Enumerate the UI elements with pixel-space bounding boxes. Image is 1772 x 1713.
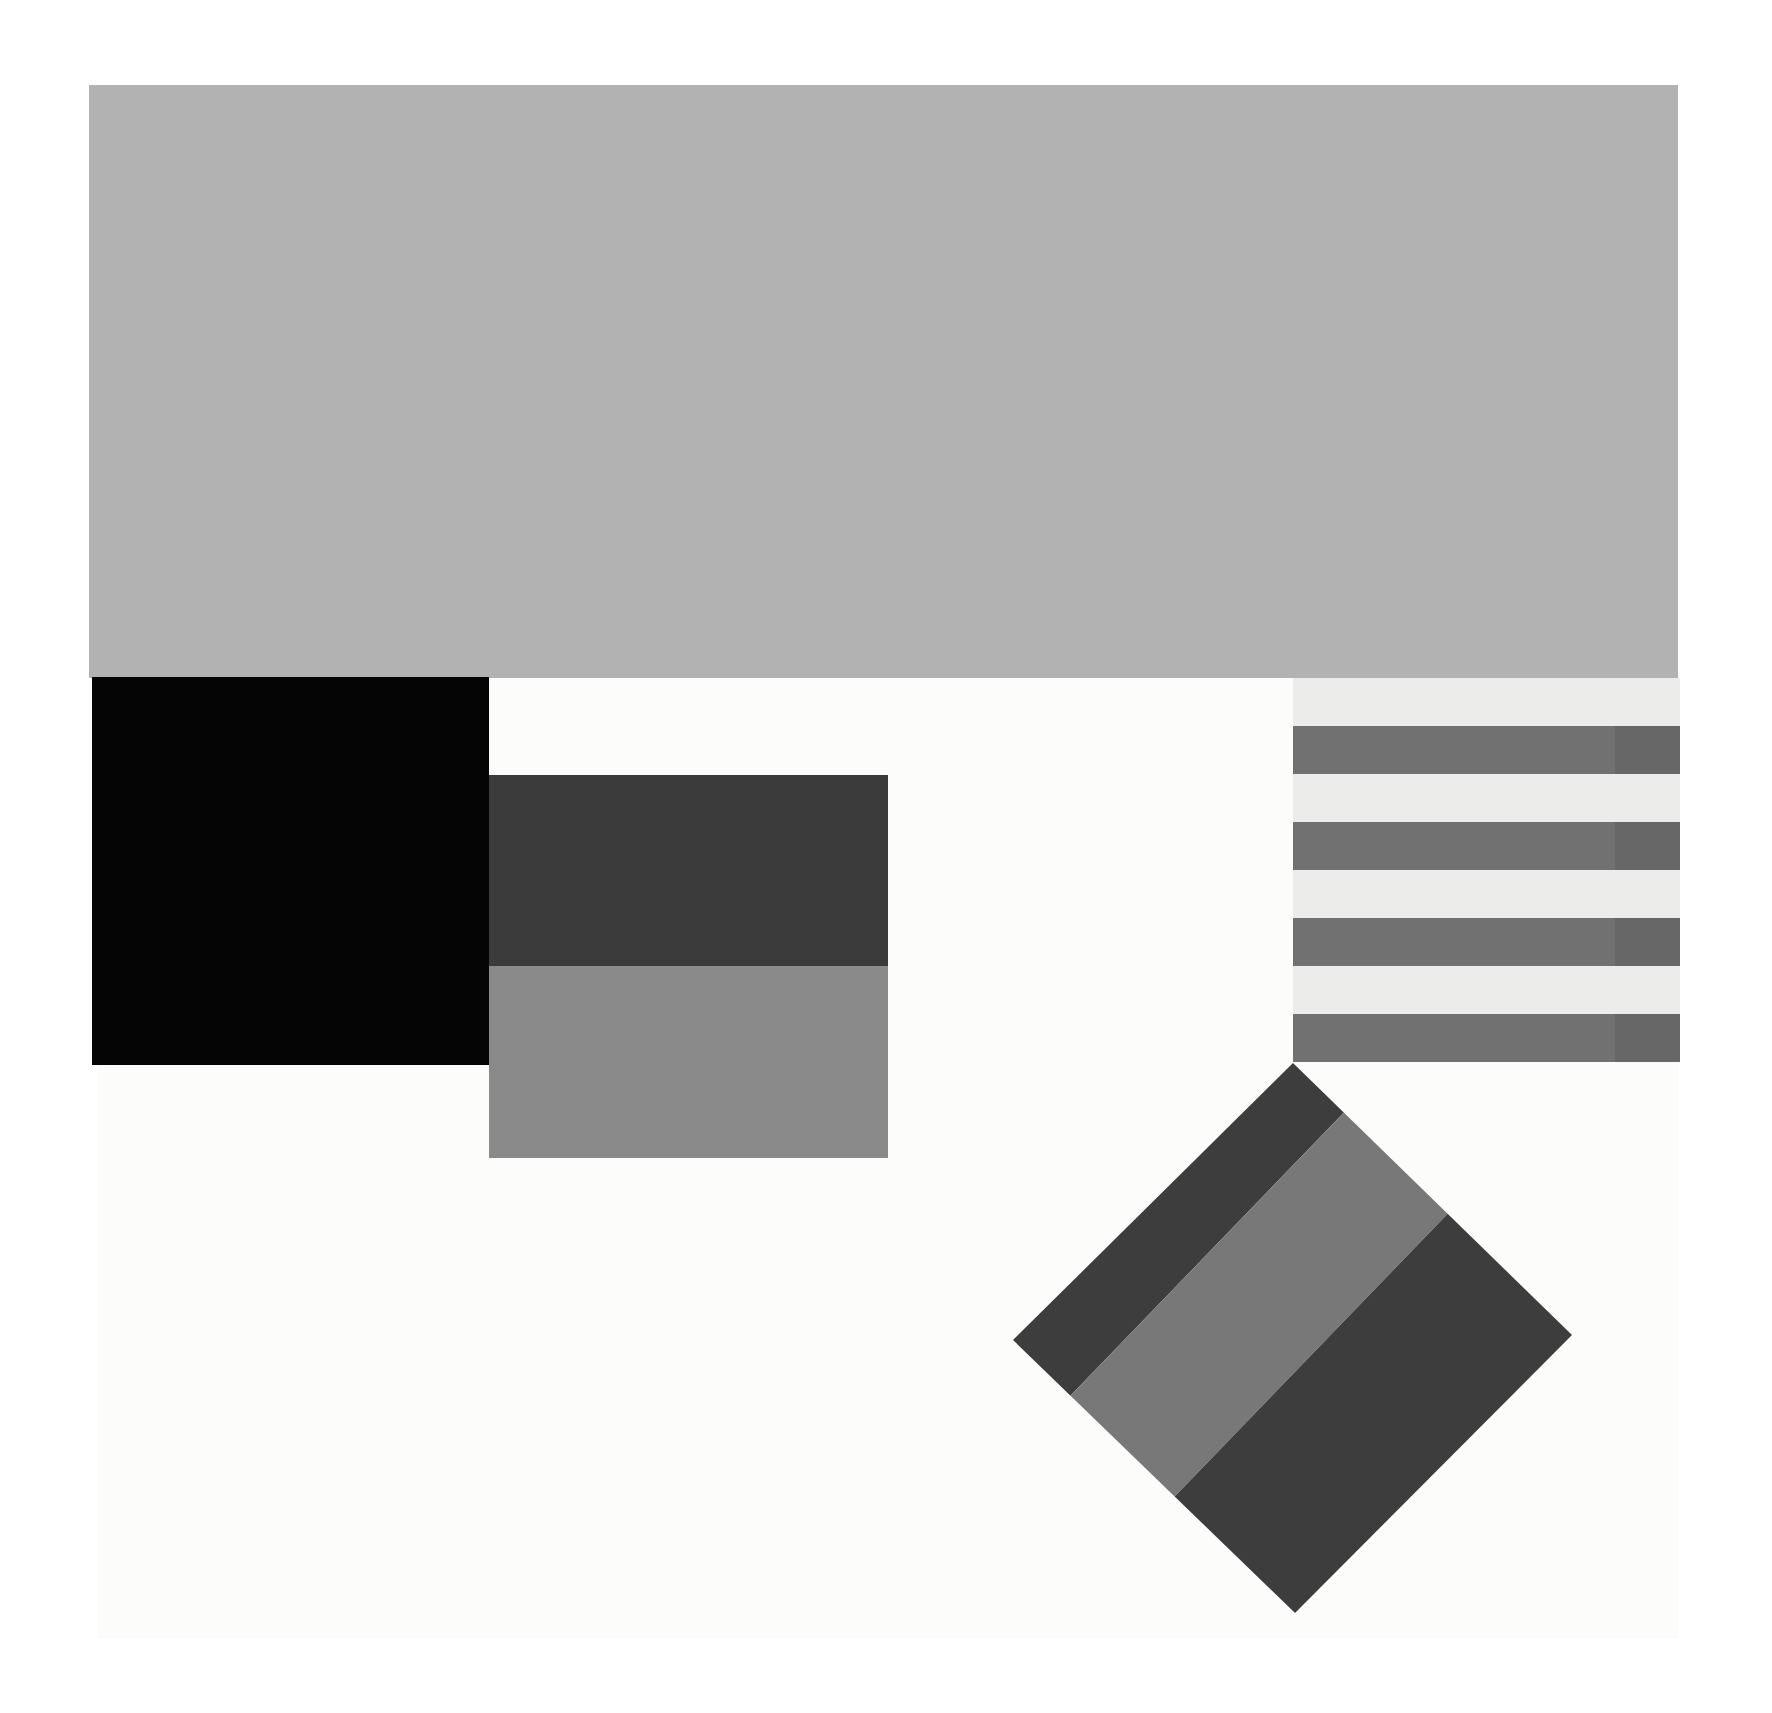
stripe-segment-right	[1615, 1014, 1680, 1062]
diamond-bands	[1013, 1063, 1572, 1613]
stripe-row	[1293, 726, 1680, 774]
black-square	[92, 677, 489, 1065]
diamond-svg	[1013, 1063, 1572, 1613]
stripe-segment-right	[1615, 918, 1680, 966]
stripe-segment-left	[1293, 918, 1615, 966]
stripe-row	[1293, 918, 1680, 966]
stripe-segment-right	[1615, 726, 1680, 774]
stripe-segment-left	[1293, 1014, 1615, 1062]
artwork-canvas	[0, 0, 1772, 1713]
medium-gray-rectangle	[489, 966, 888, 1158]
stripe-row	[1293, 1014, 1680, 1062]
light-gray-rectangle	[89, 85, 1678, 678]
striped-diamond	[1013, 1063, 1572, 1613]
stripe-row	[1293, 822, 1680, 870]
stripe-segment-left	[1293, 726, 1615, 774]
dark-gray-rectangle	[489, 775, 888, 966]
stripe-segment-right	[1615, 822, 1680, 870]
striped-panel	[1293, 678, 1680, 1062]
stripe-segment-left	[1293, 822, 1615, 870]
